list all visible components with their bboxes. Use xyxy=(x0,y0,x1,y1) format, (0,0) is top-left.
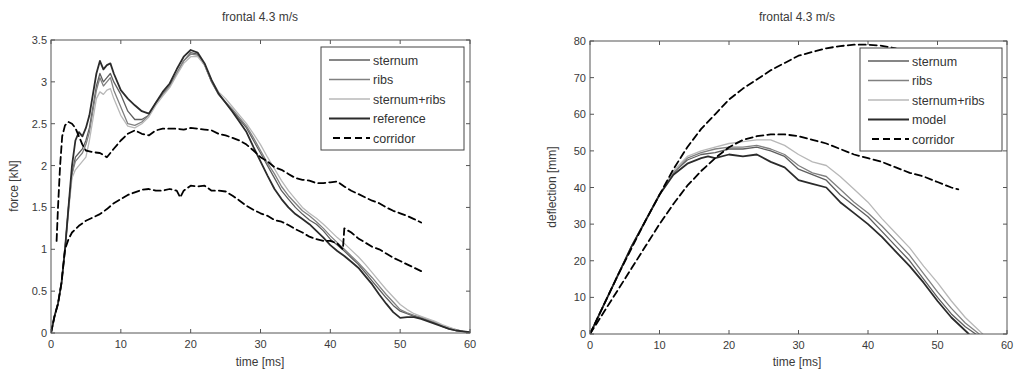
legend-label: corridor xyxy=(912,133,954,147)
y-tick-label: 60 xyxy=(574,108,586,120)
series-corridor-lower xyxy=(590,134,958,334)
legend-label: sternum+ribs xyxy=(373,93,446,107)
y-tick-label: 80 xyxy=(574,35,586,47)
y-tick-label: 0 xyxy=(41,327,47,339)
legend: sternumribssternum+ribsreferencecorridor xyxy=(321,47,464,150)
y-tick-label: 2 xyxy=(41,160,47,172)
y-tick-label: 3.5 xyxy=(32,34,47,46)
y-tick-label: 2.5 xyxy=(32,118,47,130)
chart-title: frontal 4.3 m/s xyxy=(222,10,298,24)
legend-label: sternum xyxy=(373,54,418,68)
y-tick-label: 3 xyxy=(41,76,47,88)
x-tick-label: 50 xyxy=(394,338,406,350)
y-axis-label: force [kN] xyxy=(7,160,21,211)
y-tick-label: 50 xyxy=(574,145,586,157)
legend-label: sternum xyxy=(912,55,957,69)
x-tick-label: 50 xyxy=(931,339,943,351)
legend-label: sternum+ribs xyxy=(912,94,985,108)
legend-label: model xyxy=(912,113,946,127)
legend: sternumribssternum+ribsmodelcorridor xyxy=(860,48,1002,151)
legend-label: ribs xyxy=(912,74,932,88)
x-tick-label: 60 xyxy=(464,338,476,350)
x-tick-label: 10 xyxy=(115,338,127,350)
y-axis-label: deflection [mm] xyxy=(545,146,559,227)
y-tick-label: 1.5 xyxy=(32,201,47,213)
x-tick-label: 30 xyxy=(792,339,804,351)
y-tick-label: 70 xyxy=(574,72,586,84)
series-corridor-upper xyxy=(590,45,896,334)
x-tick-label: 20 xyxy=(723,339,735,351)
legend-label: reference xyxy=(373,112,426,126)
x-tick-label: 60 xyxy=(1001,339,1013,351)
x-tick-label: 0 xyxy=(48,338,54,350)
y-tick-label: 1 xyxy=(41,243,47,255)
y-tick-label: 0.5 xyxy=(32,285,47,297)
legend-label: corridor xyxy=(373,132,415,146)
y-tick-label: 0 xyxy=(580,328,586,340)
chart-title: frontal 4.3 m/s xyxy=(759,10,835,24)
series-corridor-lower xyxy=(51,186,421,333)
x-tick-label: 20 xyxy=(185,338,197,350)
x-axis-label: time [ms] xyxy=(773,355,822,369)
chart-canvas: frontal 4.3 m/s time [ms] force [kN] 010… xyxy=(0,0,1034,389)
x-axis-label: time [ms] xyxy=(236,355,285,369)
x-tick-label: 40 xyxy=(324,338,336,350)
legend-label: ribs xyxy=(373,73,393,87)
figure: frontal 4.3 m/s time [ms] force [kN] 010… xyxy=(0,0,1034,389)
x-tick-label: 0 xyxy=(587,339,593,351)
x-tick-label: 30 xyxy=(254,338,266,350)
deflection-chart-panel: frontal 4.3 m/s time [ms] deflection [mm… xyxy=(545,10,1013,369)
y-tick-label: 20 xyxy=(574,255,586,267)
series-ribs xyxy=(590,145,979,334)
y-tick-label: 30 xyxy=(574,218,586,230)
x-tick-label: 10 xyxy=(653,339,665,351)
y-tick-label: 40 xyxy=(574,182,586,194)
x-tick-label: 40 xyxy=(862,339,874,351)
y-tick-label: 10 xyxy=(574,291,586,303)
force-chart-panel: frontal 4.3 m/s time [ms] force [kN] 010… xyxy=(7,10,476,369)
